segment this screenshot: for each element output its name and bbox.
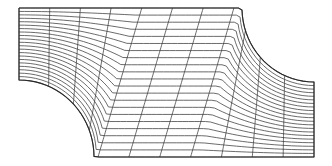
grid-line-horizontal (19, 56, 314, 132)
grid-line-vertical (221, 31, 245, 157)
grid-line-vertical (49, 8, 50, 86)
grid-line-horizontal (19, 39, 314, 114)
grid-line-horizontal (19, 73, 314, 150)
grid-line-horizontal (19, 35, 314, 110)
grid-line-horizontal (19, 49, 314, 125)
grid-line-horizontal (19, 66, 314, 142)
grid-line-vertical (89, 8, 111, 130)
mesh-figure (0, 0, 332, 166)
curvilinear-grid-diagram (0, 0, 332, 166)
grid-line-vertical (191, 8, 234, 157)
grid-line-vertical (252, 57, 260, 157)
grid-line-horizontal (19, 22, 314, 97)
grid-line-vertical (283, 76, 284, 157)
